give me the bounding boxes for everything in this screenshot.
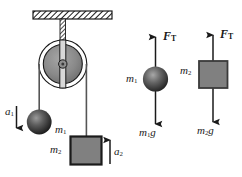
mass2-block (71, 137, 102, 165)
pulley-wheel (39, 40, 87, 88)
free-body-2-block (199, 61, 228, 88)
free-body-2-weight-label: m2g (197, 125, 214, 137)
physics-figure-atwood-machine: a1 m1 m2 a2 FT m1 m1g FT m2 m2g (0, 0, 242, 177)
mass1-label: m1 (55, 124, 66, 136)
free-body-2-tension-label: FT (220, 28, 233, 41)
free-body-2-object-label: m2 (180, 65, 191, 77)
mass1-sphere (27, 110, 52, 135)
free-body-1-sphere (143, 66, 168, 91)
pulley-mount-rod (60, 19, 66, 43)
hatched-ceiling-support (33, 11, 112, 19)
mass2-label: m2 (50, 144, 61, 156)
free-body-1-tension-label: FT (163, 30, 176, 43)
free-body-1-weight-label: m1g (139, 127, 156, 139)
acceleration1-label: a1 (5, 106, 14, 118)
free-body-1-object-label: m1 (126, 73, 137, 85)
acceleration2-label: a2 (114, 146, 123, 158)
